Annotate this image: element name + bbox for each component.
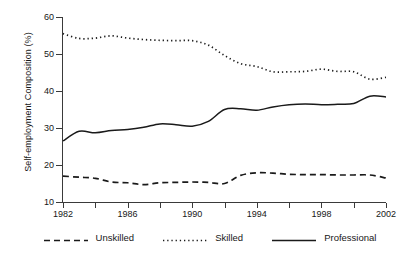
legend-item-professional[interactable]: Professional bbox=[271, 232, 376, 243]
series-line-professional bbox=[63, 96, 386, 141]
solid-line-key bbox=[271, 232, 317, 243]
series-line-unskilled bbox=[63, 173, 386, 185]
legend-item-unskilled[interactable]: Unskilled bbox=[43, 232, 135, 243]
legend-label-professional: Professional bbox=[324, 232, 376, 243]
legend-label-skilled: Skilled bbox=[215, 232, 243, 243]
legend-item-skilled[interactable]: Skilled bbox=[162, 232, 243, 243]
series-line-skilled bbox=[63, 34, 386, 80]
dotted-line-key bbox=[162, 232, 208, 243]
self-employment-composition-chart: Self-employment Composition (%) 10203040… bbox=[0, 0, 419, 255]
chart-series-layer bbox=[0, 0, 419, 255]
chart-legend: UnskilledSkilledProfessional bbox=[0, 228, 419, 246]
dashed-line-key bbox=[43, 232, 89, 243]
legend-label-unskilled: Unskilled bbox=[96, 232, 135, 243]
